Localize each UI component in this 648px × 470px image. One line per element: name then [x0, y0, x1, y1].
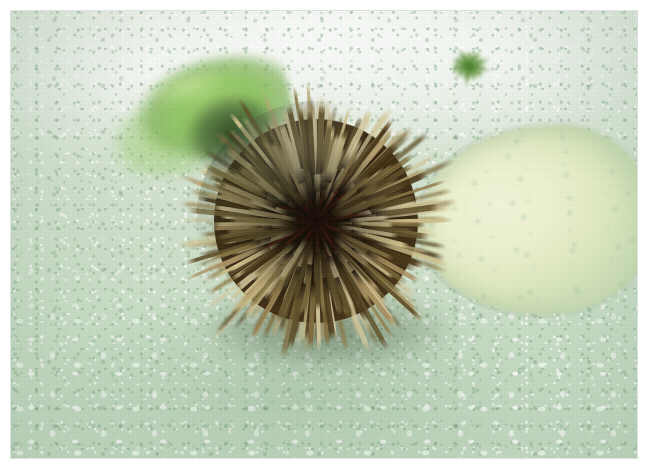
photograph: [11, 11, 637, 458]
screenshot-canvas: Underwater photograph of a sea urchin wi…: [0, 0, 648, 470]
sea-urchin: [166, 73, 466, 373]
urchin-spines-front: [166, 73, 466, 373]
